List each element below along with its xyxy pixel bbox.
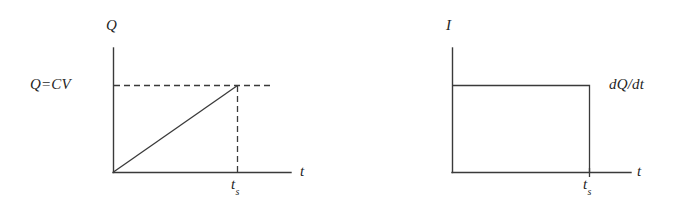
left-x-axis-label: t bbox=[300, 164, 304, 179]
right-ts-subscript: s bbox=[587, 186, 591, 197]
right-y-axis-label: I bbox=[446, 18, 451, 33]
left-ts-subscript: s bbox=[235, 186, 239, 197]
right-current-step-line bbox=[453, 86, 590, 173]
left-charge-ramp-line bbox=[114, 86, 238, 173]
figure-canvas bbox=[0, 0, 700, 211]
right-dqdt-curve-label: dQ/dt bbox=[609, 77, 644, 92]
left-y-axis-label: Q bbox=[106, 18, 117, 33]
left-ts-tick-label: ts bbox=[231, 177, 239, 195]
right-x-axis-label: t bbox=[637, 164, 641, 179]
chart-charge-vs-time bbox=[113, 48, 291, 173]
figure-root: Q Q=CV ts t I dQ/dt ts t bbox=[0, 0, 700, 211]
left-q-equals-cv-label: Q=CV bbox=[30, 77, 71, 92]
right-ts-tick-label: ts bbox=[583, 177, 591, 195]
chart-current-vs-time bbox=[452, 48, 631, 177]
